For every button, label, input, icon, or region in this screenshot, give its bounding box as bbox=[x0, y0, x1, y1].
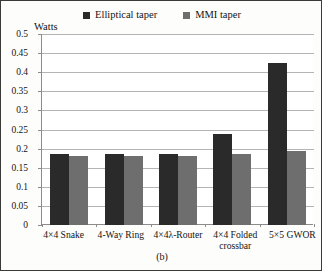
bar bbox=[268, 63, 287, 225]
bar bbox=[232, 154, 251, 225]
y-axis-tick-label: 0 bbox=[0, 220, 28, 230]
bar-group bbox=[42, 34, 96, 225]
y-axis-tick-label: 0.45 bbox=[0, 48, 28, 58]
bar-group bbox=[96, 34, 150, 225]
x-axis-category-label: 4×4 Folded crossbar bbox=[207, 229, 264, 251]
x-axis-tick-mark bbox=[314, 224, 315, 227]
legend-label: Elliptical taper bbox=[95, 10, 157, 21]
legend-item-mmi-taper: MMI taper bbox=[183, 10, 241, 21]
legend-swatch-icon bbox=[183, 12, 190, 19]
bars-layer bbox=[42, 34, 314, 225]
bar-group bbox=[151, 34, 205, 225]
x-axis-tick-mark bbox=[151, 224, 152, 227]
bar bbox=[105, 154, 124, 225]
y-axis-tick-label: 0.05 bbox=[0, 201, 28, 211]
y-axis-tick-label: 0.2 bbox=[0, 144, 28, 154]
plot-area: 0.50.450.40.350.30.250.20.150.10.050 bbox=[41, 34, 313, 225]
x-axis-tick-mark bbox=[205, 224, 206, 227]
figure-container: Elliptical taper MMI taper Watts 0.50.45… bbox=[0, 0, 322, 271]
x-axis-labels: 4×4 Snake4-Way Ring4×4λ-Router4×4 Folded… bbox=[35, 229, 321, 251]
bar bbox=[50, 154, 69, 225]
bar-group bbox=[205, 34, 259, 225]
y-axis-tick-label: 0.4 bbox=[0, 67, 28, 77]
bar bbox=[178, 156, 197, 225]
x-axis-tick-mark bbox=[96, 224, 97, 227]
bar bbox=[213, 134, 232, 225]
y-axis-tick-label: 0.1 bbox=[0, 182, 28, 192]
legend-item-elliptical-taper: Elliptical taper bbox=[83, 10, 157, 21]
bar-group bbox=[260, 34, 314, 225]
x-axis-tick-mark bbox=[42, 224, 43, 227]
y-axis-tick-label: 0.35 bbox=[0, 86, 28, 96]
legend-label: MMI taper bbox=[195, 10, 241, 21]
bar bbox=[159, 154, 178, 225]
x-axis-tick-mark bbox=[260, 224, 261, 227]
bar bbox=[124, 156, 143, 225]
y-axis-tick-label: 0.5 bbox=[0, 29, 28, 39]
x-axis-category-label: 4×4λ-Router bbox=[149, 229, 206, 251]
figure-caption: (b) bbox=[1, 251, 322, 262]
y-axis-title: Watts bbox=[34, 21, 58, 32]
legend-swatch-icon bbox=[83, 12, 90, 19]
y-axis-tick-label: 0.15 bbox=[0, 163, 28, 173]
y-axis-tick-label: 0.3 bbox=[0, 105, 28, 115]
x-axis-category-label: 5×5 GWOR bbox=[264, 229, 321, 251]
y-axis-tick-label: 0.25 bbox=[0, 125, 28, 135]
x-axis-category-label: 4×4 Snake bbox=[35, 229, 92, 251]
bar bbox=[287, 151, 306, 225]
bar bbox=[69, 156, 88, 225]
x-axis-category-label: 4-Way Ring bbox=[92, 229, 149, 251]
